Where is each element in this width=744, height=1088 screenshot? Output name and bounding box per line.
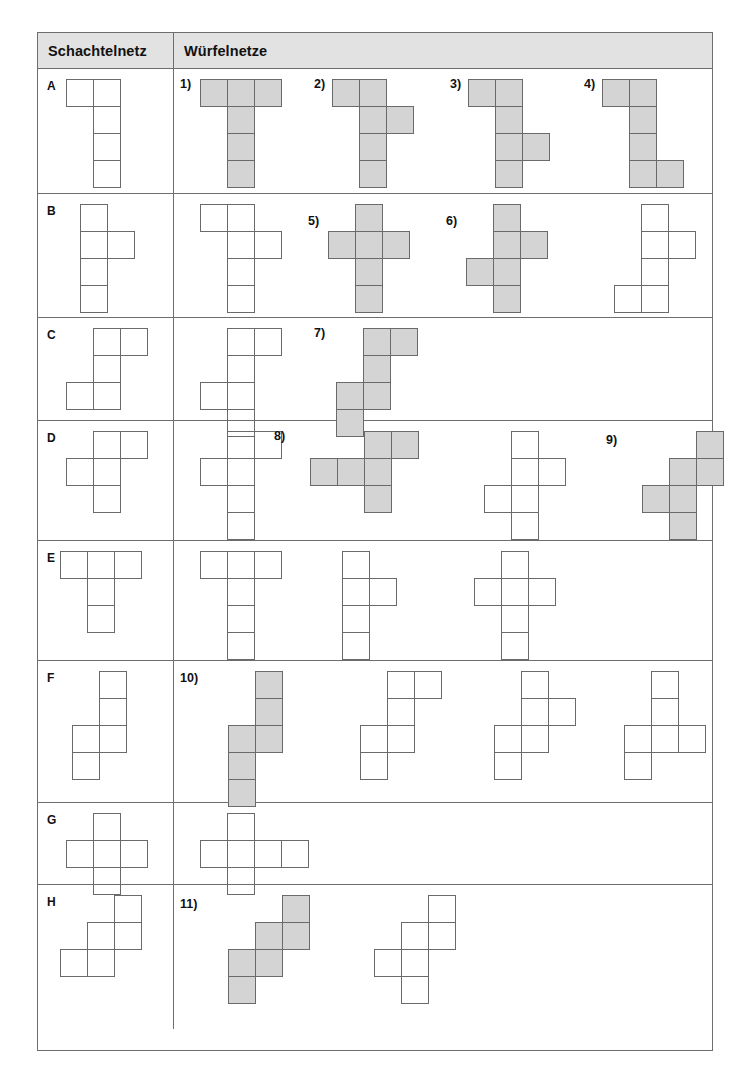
net-square xyxy=(227,133,255,161)
net-square xyxy=(87,578,115,606)
net-square xyxy=(120,840,148,868)
wuerfelnetze-cell-e xyxy=(174,541,712,660)
net-square xyxy=(66,79,94,107)
net-square xyxy=(282,895,310,923)
net-square xyxy=(200,551,228,579)
net-square xyxy=(364,458,392,486)
header-cell-schachtelnetz: Schachtelnetz xyxy=(38,33,174,68)
net-square xyxy=(227,813,255,841)
net-square xyxy=(521,725,549,753)
table-row: B5)6) xyxy=(38,194,712,318)
net-square xyxy=(66,458,94,486)
header-label-wuerfelnetze: Würfelnetze xyxy=(184,43,267,59)
net-square xyxy=(466,258,494,286)
net-square xyxy=(522,133,550,161)
net-square xyxy=(227,160,255,188)
net-square xyxy=(521,671,549,699)
row-label-h: H xyxy=(47,895,56,909)
row-label-f: F xyxy=(47,671,54,685)
net-square xyxy=(651,725,679,753)
net-square xyxy=(227,258,255,286)
net-square xyxy=(602,79,630,107)
table-body: A1)2)3)4)B5)6)C7)D8)9)EF10)GH11) xyxy=(38,69,712,1029)
net-square xyxy=(360,725,388,753)
net-square xyxy=(342,578,370,606)
net-square xyxy=(428,922,456,950)
net-number-label: 9) xyxy=(606,433,617,447)
net-square xyxy=(696,458,724,486)
net-square xyxy=(255,725,283,753)
net-square xyxy=(255,671,283,699)
net-square xyxy=(227,328,255,356)
net-square xyxy=(228,976,256,1004)
net-square xyxy=(227,285,255,313)
net-square xyxy=(87,605,115,633)
net-square xyxy=(342,632,370,660)
net-square xyxy=(87,949,115,977)
table-row: F10) xyxy=(38,661,712,803)
net-square xyxy=(114,922,142,950)
net-square xyxy=(363,355,391,383)
net-square xyxy=(107,231,135,259)
net-square xyxy=(511,485,539,513)
net-square xyxy=(511,431,539,459)
net-square xyxy=(355,285,383,313)
net-square xyxy=(641,258,669,286)
net-number-label: 7) xyxy=(314,326,325,340)
net-number-label: 8) xyxy=(274,429,285,443)
net-square xyxy=(548,698,576,726)
schachtelnetz-cell-g: G xyxy=(38,803,174,884)
row-label-c: C xyxy=(47,328,56,342)
table-row: G xyxy=(38,803,712,885)
net-square xyxy=(93,485,121,513)
net-square xyxy=(401,976,429,1004)
net-square xyxy=(60,949,88,977)
net-square xyxy=(337,458,365,486)
header-cell-wuerfelnetze: Würfelnetze xyxy=(174,33,712,68)
net-square xyxy=(93,813,121,841)
net-square xyxy=(511,512,539,540)
net-square xyxy=(200,458,228,486)
net-square xyxy=(520,231,548,259)
schachtelnetz-cell-c: C xyxy=(38,318,174,420)
net-square xyxy=(641,204,669,232)
net-square xyxy=(401,922,429,950)
net-square xyxy=(255,698,283,726)
net-square xyxy=(328,231,356,259)
net-square xyxy=(200,204,228,232)
net-square xyxy=(254,840,282,868)
net-square xyxy=(310,458,338,486)
net-square xyxy=(391,431,419,459)
net-square xyxy=(227,106,255,134)
net-square xyxy=(120,328,148,356)
net-square xyxy=(66,840,94,868)
net-square xyxy=(428,895,456,923)
net-square xyxy=(80,258,108,286)
row-label-e: E xyxy=(47,551,55,565)
net-square xyxy=(228,752,256,780)
net-square xyxy=(669,458,697,486)
net-square xyxy=(641,231,669,259)
net-square xyxy=(200,840,228,868)
net-square xyxy=(99,725,127,753)
net-square xyxy=(93,458,121,486)
net-square xyxy=(60,551,88,579)
net-square xyxy=(200,79,228,107)
net-square xyxy=(93,133,121,161)
net-square xyxy=(80,204,108,232)
net-square xyxy=(538,458,566,486)
net-square xyxy=(629,160,657,188)
net-number-label: 11) xyxy=(180,897,197,911)
net-square xyxy=(511,458,539,486)
wuerfelnetze-cell-h: 11) xyxy=(174,885,712,1029)
wuerfelnetze-cell-a: 1)2)3)4) xyxy=(174,69,712,193)
net-square xyxy=(386,106,414,134)
schachtelnetz-cell-f: F xyxy=(38,661,174,802)
net-square xyxy=(494,752,522,780)
net-square xyxy=(494,725,522,753)
net-square xyxy=(227,485,255,513)
net-square xyxy=(493,285,521,313)
net-number-label: 4) xyxy=(584,77,595,91)
net-square xyxy=(614,285,642,313)
net-square xyxy=(93,106,121,134)
